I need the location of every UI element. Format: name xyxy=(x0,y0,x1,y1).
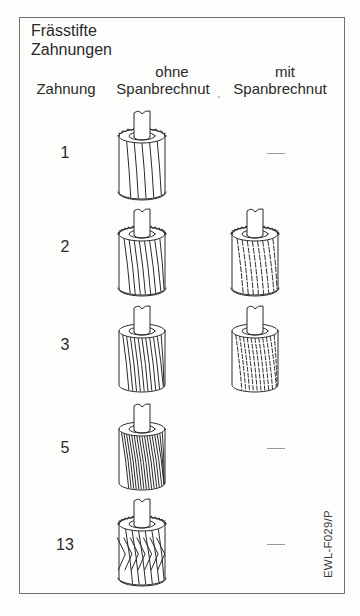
row-13-zahnung: 13 xyxy=(45,536,85,554)
row-5-mit-not-available xyxy=(267,448,285,449)
header-ohne-spanbrechnut: Spanbrechnut xyxy=(108,80,218,97)
row-13-mit-not-available xyxy=(267,544,285,545)
separator-dot xyxy=(218,96,220,98)
cutter-2-ohne-icon xyxy=(102,206,182,306)
cutter-5-ohne-icon xyxy=(102,401,182,501)
row-1-mit-not-available xyxy=(267,153,285,154)
cutter-13-ohne-icon xyxy=(102,496,182,596)
row-3-zahnung: 3 xyxy=(45,336,85,354)
header-mit: mit xyxy=(235,63,335,80)
header-zahnung: Zahnung xyxy=(28,80,104,97)
cutter-1-ohne-icon xyxy=(102,108,182,208)
cutter-3-mit-icon xyxy=(215,303,295,403)
row-2-zahnung: 2 xyxy=(45,238,85,256)
row-5-zahnung: 5 xyxy=(45,439,85,457)
figure-frame xyxy=(19,17,345,594)
reference-code: EWL-F029/P xyxy=(322,510,334,578)
cutter-2-mit-icon xyxy=(215,206,295,306)
figure-title-line2: Zahnungen xyxy=(31,41,112,59)
header-mit-spanbrechnut: Spanbrechnut xyxy=(224,80,336,97)
header-ohne: ohne xyxy=(122,63,222,80)
row-1-zahnung: 1 xyxy=(45,144,85,162)
cutter-3-ohne-icon xyxy=(102,303,182,403)
figure-title-line1: Frässtifte xyxy=(31,22,97,40)
